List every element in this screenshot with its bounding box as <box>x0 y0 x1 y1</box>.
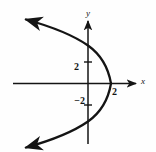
parabola-figure: 2 −2 2 x y <box>0 0 156 152</box>
tick-label-y-positive: 2 <box>74 61 79 72</box>
y-axis-label: y <box>85 8 90 18</box>
parabola-upper-branch <box>26 20 111 84</box>
graph-canvas: 2 −2 2 x y <box>0 0 156 152</box>
tick-label-y-negative: −2 <box>74 95 85 106</box>
tick-label-x-positive: 2 <box>112 86 117 97</box>
parabola-lower-branch <box>26 84 111 148</box>
x-axis-label: x <box>140 76 145 86</box>
